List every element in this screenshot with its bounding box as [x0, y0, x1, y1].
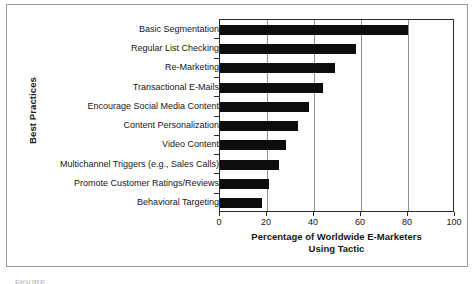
category-label: Basic Segmentation [21, 24, 219, 34]
category-label: Re-Marketing [21, 62, 219, 72]
x-tick-mark [266, 212, 267, 216]
category-label: Regular List Checking [21, 43, 219, 53]
x-axis-title-line: Percentage of Worldwide E-Marketers [219, 231, 454, 243]
y-tick-mark [214, 154, 219, 155]
bar [220, 179, 269, 189]
x-tick-label: 40 [293, 217, 333, 227]
category-label: Promote Customer Ratings/Reviews [21, 178, 219, 188]
x-tick-label: 100 [434, 217, 474, 227]
x-axis-title: Percentage of Worldwide E-MarketersUsing… [219, 231, 454, 255]
x-tick-mark [313, 212, 314, 216]
x-tick-mark [454, 212, 455, 216]
category-axis-labels: Basic SegmentationRegular List CheckingR… [21, 19, 219, 212]
bar [220, 121, 298, 131]
figure-caption-partial: FIGURE [15, 276, 45, 284]
category-label: Behavioral Targeting [21, 197, 219, 207]
category-label: Video Content [21, 139, 219, 149]
y-tick-mark [214, 77, 219, 78]
x-axis-title-line: Using Tactic [219, 243, 454, 255]
bar [220, 160, 279, 170]
x-tick-mark [219, 212, 220, 216]
category-label: Transactional E-Mails [21, 82, 219, 92]
category-label: Content Personalization [21, 120, 219, 130]
y-tick-mark [214, 173, 219, 174]
gridline [408, 20, 409, 211]
bar [220, 140, 286, 150]
bar [220, 198, 262, 208]
y-tick-mark [214, 58, 219, 59]
category-label: Encourage Social Media Content [21, 101, 219, 111]
y-tick-mark [214, 116, 219, 117]
y-tick-mark [214, 38, 219, 39]
x-tick-label: 0 [199, 217, 239, 227]
bar [220, 63, 335, 73]
x-tick-label: 60 [340, 217, 380, 227]
figure-frame: Best Practices Basic SegmentationRegular… [6, 4, 468, 267]
y-tick-mark [214, 96, 219, 97]
bar [220, 25, 408, 35]
y-tick-mark [214, 135, 219, 136]
gridline [361, 20, 362, 211]
bar [220, 44, 356, 54]
category-label: Multichannel Triggers (e.g., Sales Calls… [21, 159, 219, 169]
y-tick-mark [214, 193, 219, 194]
plot-area [219, 19, 454, 212]
x-tick-mark [360, 212, 361, 216]
x-tick-mark [407, 212, 408, 216]
x-tick-label: 20 [246, 217, 286, 227]
bar [220, 83, 323, 93]
bar [220, 102, 309, 112]
x-tick-label: 80 [387, 217, 427, 227]
